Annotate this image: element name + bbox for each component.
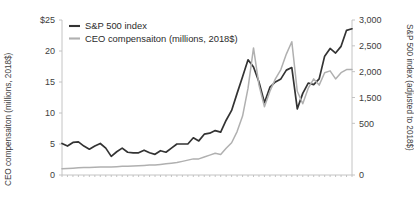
right-axis-title-group: S&P 500 index (adjusted to 2018$) [405, 24, 414, 151]
series-line-sp500 [62, 29, 352, 157]
line-chart: CEO compensaiton (millions, 2018$) S&P 5… [0, 0, 414, 201]
left-axis-title: CEO compensaiton (millions, 2018$) [4, 52, 13, 186]
left-tick-label: 5 [50, 139, 55, 149]
right-tick-label: 500 [359, 119, 374, 129]
chart-legend: S&P 500 indexCEO compensaiton (millions,… [69, 20, 238, 44]
right-axis-tick-labels: 3,0002,5002,0001,5005000 [359, 15, 382, 180]
right-tick-label: 3,000 [359, 15, 382, 25]
chart-container: CEO compensaiton (millions, 2018$) S&P 5… [0, 0, 414, 201]
series-line-ceo-comp [62, 42, 352, 169]
left-tick-label: 15 [45, 77, 55, 87]
right-tick-label: 0 [359, 170, 364, 180]
right-tick-label: 2,500 [359, 41, 382, 51]
left-tick-label: 10 [45, 108, 55, 118]
left-axis-title-group: CEO compensaiton (millions, 2018$) [4, 52, 13, 186]
right-tick-label: 1,500 [359, 93, 382, 103]
left-tick-label: 20 [45, 46, 55, 56]
right-axis-title: S&P 500 index (adjusted to 2018$) [405, 24, 414, 151]
legend-label: CEO compensaiton (millions, 2018$) [85, 33, 238, 44]
left-axis-tick-labels: $2520151050 [40, 15, 55, 180]
data-series-group [62, 29, 352, 169]
left-tick-label: $25 [40, 15, 55, 25]
legend-label: S&P 500 index [85, 20, 147, 31]
left-tick-label: 0 [50, 170, 55, 180]
right-tick-label: 2,000 [359, 67, 382, 77]
